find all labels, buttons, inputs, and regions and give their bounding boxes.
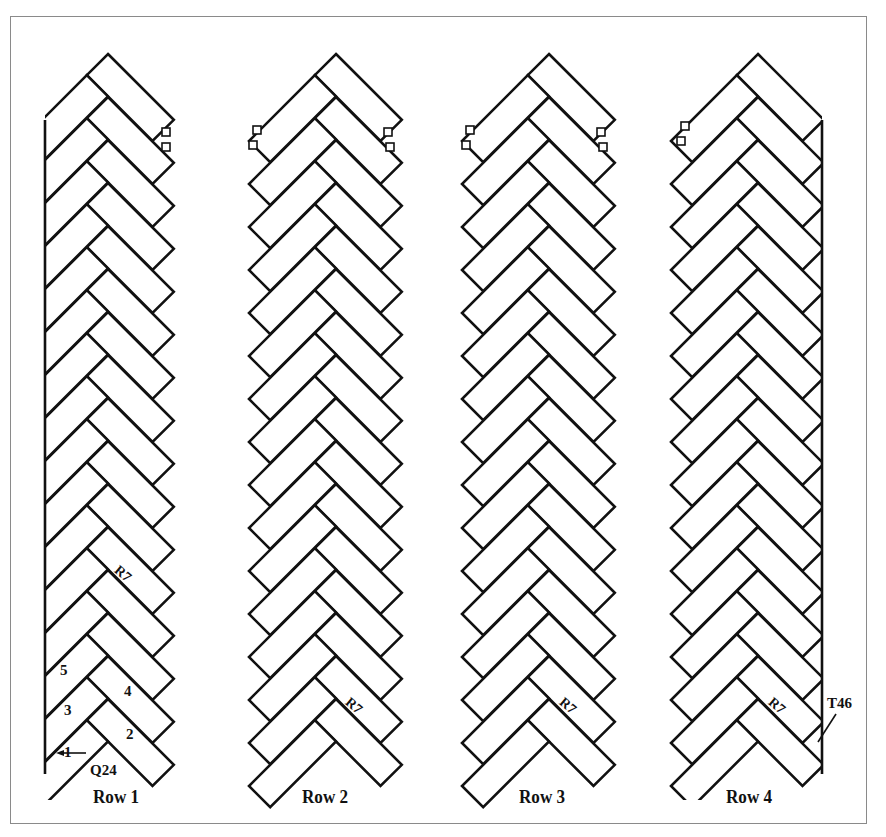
sequence-number-5: 5 bbox=[60, 662, 68, 679]
filler-notch bbox=[597, 128, 605, 136]
filler-notch bbox=[162, 143, 170, 151]
sequence-number-4: 4 bbox=[124, 683, 132, 700]
sequence-number-2: 2 bbox=[126, 726, 134, 743]
filler-notch bbox=[466, 126, 474, 134]
sequence-number-3: 3 bbox=[64, 702, 72, 719]
row-2-boards bbox=[249, 54, 402, 807]
filler-notch bbox=[599, 143, 607, 151]
callout-t46: T46 bbox=[827, 695, 852, 712]
filler-notch bbox=[249, 141, 257, 149]
filler-notch bbox=[681, 122, 689, 130]
row-3-label: Row 3 bbox=[519, 786, 565, 808]
filler-notch bbox=[253, 126, 261, 134]
filler-notch bbox=[162, 128, 170, 136]
filler-notch bbox=[462, 141, 470, 149]
filler-notch bbox=[386, 143, 394, 151]
row-4-label: Row 4 bbox=[726, 786, 772, 808]
herringbone-diagram bbox=[0, 0, 886, 837]
filler-notch bbox=[384, 128, 392, 136]
row-4-boards bbox=[671, 54, 824, 807]
sequence-number-1: 1 bbox=[64, 744, 72, 761]
row-3-boards bbox=[462, 54, 615, 807]
row-1-label: Row 1 bbox=[93, 786, 139, 808]
callout-q24: Q24 bbox=[90, 762, 117, 779]
filler-notch bbox=[677, 137, 685, 145]
row-2-label: Row 2 bbox=[302, 786, 348, 808]
